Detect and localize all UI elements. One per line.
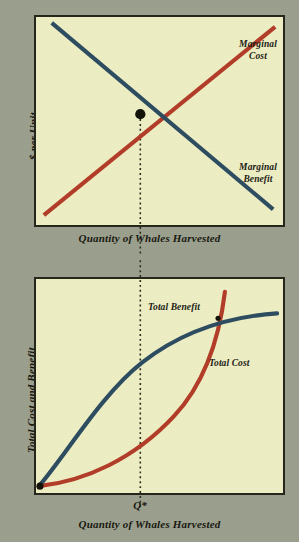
total-cost-curve <box>39 292 225 486</box>
total-benefit-label: Total Benefit <box>148 301 228 313</box>
bottom-chart-x-axis-label: Quantity of Whales Harvested <box>0 518 299 530</box>
bottom-chart-panel: Total Cost and Benefit Total Benefit Tot… <box>0 260 299 542</box>
top-chart-x-axis-label: Quantity of Whales Harvested <box>0 232 299 244</box>
total-benefit-curve <box>39 313 277 486</box>
total-curves-crossing-marker <box>215 316 220 321</box>
qstar-tick-label: Q* <box>124 499 156 511</box>
total-cost-label: Total Cost <box>209 357 279 369</box>
marginal-benefit-label: Marginal Benefit <box>228 161 288 185</box>
top-chart-panel: $ per Unit Marginal Cost Marginal Benefi… <box>0 0 299 260</box>
equilibrium-point-marker <box>135 109 145 119</box>
figure-canvas: $ per Unit Marginal Cost Marginal Benefi… <box>0 0 299 542</box>
bottom-origin-marker <box>36 483 43 490</box>
marginal-cost-label: Marginal Cost <box>228 38 288 62</box>
